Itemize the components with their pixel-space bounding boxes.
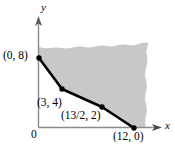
x-axis-label: x bbox=[165, 120, 170, 131]
graph-figure: 0 x y (0, 8) (3, 4) (13/2, 2) (12, 0) bbox=[0, 0, 175, 148]
vertex-point-3-4 bbox=[59, 86, 64, 91]
vertex-point-0-8 bbox=[36, 55, 41, 60]
plot-canvas bbox=[0, 0, 175, 148]
origin-label: 0 bbox=[31, 129, 37, 141]
point-label-3-4: (3, 4) bbox=[37, 97, 62, 109]
point-label-0-8: (0, 8) bbox=[3, 50, 28, 62]
y-axis-label: y bbox=[41, 2, 46, 13]
y-axis bbox=[35, 16, 42, 128]
point-label-13-2-2: (13/2, 2) bbox=[61, 110, 101, 122]
point-label-12-0: (12, 0) bbox=[113, 131, 144, 143]
